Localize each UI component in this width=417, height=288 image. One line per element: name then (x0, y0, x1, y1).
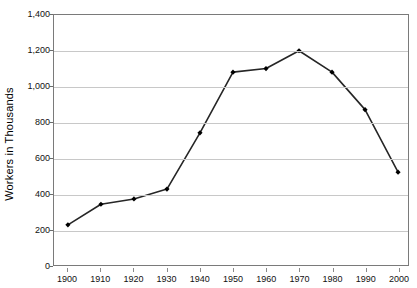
x-tick-mark (67, 268, 68, 272)
gridline (54, 87, 408, 88)
y-tick-mark (49, 158, 53, 159)
x-tick-mark (266, 268, 267, 272)
y-tick-mark (49, 194, 53, 195)
y-tick-label: 600 (14, 154, 50, 163)
data-point-marker (131, 196, 136, 201)
x-tick-mark (167, 268, 168, 272)
x-tick-mark (366, 268, 367, 272)
x-tick-mark (233, 268, 234, 272)
series-line-workers (54, 15, 408, 265)
y-tick-mark (49, 122, 53, 123)
line-chart: Workers in Thousands 02004006008001,0001… (0, 0, 417, 288)
plot-area (53, 14, 409, 266)
y-tick-mark (49, 266, 53, 267)
y-tick-mark (49, 50, 53, 51)
y-tick-label: 200 (14, 226, 50, 235)
x-tick-mark (100, 268, 101, 272)
y-tick-label: 800 (14, 118, 50, 127)
y-tick-label: 1,200 (14, 46, 50, 55)
y-tick-mark (49, 14, 53, 15)
series-polyline (68, 51, 398, 225)
y-tick-label: 1,400 (14, 10, 50, 19)
x-axis-tick-labels: 1900191019201930194019501960197019801990… (53, 268, 409, 284)
gridline (54, 195, 408, 196)
x-tick-mark (133, 268, 134, 272)
gridline (54, 159, 408, 160)
x-tick-mark (399, 268, 400, 272)
gridline (54, 231, 408, 232)
x-tick-mark (200, 268, 201, 272)
x-tick-mark (333, 268, 334, 272)
gridline (54, 123, 408, 124)
x-tick-mark (299, 268, 300, 272)
gridline (54, 51, 408, 52)
y-tick-label: 1,000 (14, 82, 50, 91)
y-tick-mark (49, 230, 53, 231)
y-axis-tick-labels: 02004006008001,0001,2001,400 (14, 0, 50, 288)
y-tick-label: 0 (14, 262, 50, 271)
y-tick-mark (49, 86, 53, 87)
x-tick-label: 2000 (379, 274, 417, 284)
y-tick-label: 400 (14, 190, 50, 199)
